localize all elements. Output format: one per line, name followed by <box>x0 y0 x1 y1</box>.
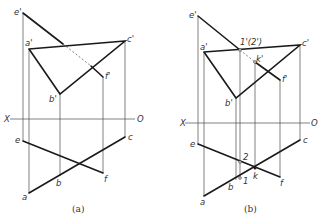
axis-label-x: X <box>3 114 10 124</box>
triangle-abc-front <box>204 45 300 98</box>
label-b: b <box>56 178 61 188</box>
caption-b: (b) <box>244 204 257 214</box>
label-a-prime: a' <box>25 38 33 48</box>
label-b-prime: b' <box>49 94 57 104</box>
line-ac-top <box>204 140 300 196</box>
label-b-prime: b' <box>225 98 233 108</box>
figure-b: e' a' c' f' b' 1'(2') k' X O e c 2 1 k f… <box>179 10 318 214</box>
label-1: 1 <box>243 176 248 186</box>
label-1-2-prime: 1'(2') <box>240 37 262 47</box>
label-f: f <box>280 178 285 188</box>
label-k-prime: k' <box>256 54 263 64</box>
label-a: a <box>22 192 27 202</box>
label-a-prime: a' <box>200 42 208 52</box>
label-a: a <box>200 197 205 207</box>
label-b: b <box>228 182 233 192</box>
point-2 <box>239 161 242 164</box>
line-ef-front-hidden <box>63 44 91 66</box>
figure-a: e' a' c' f' b' X O e c f b a (a) <box>3 7 144 214</box>
line-ef-top <box>198 144 280 177</box>
label-c-prime: c' <box>127 34 134 44</box>
label-e: e <box>15 135 20 145</box>
line-ac-top <box>29 137 125 193</box>
label-e-prime: e' <box>14 7 22 17</box>
point-k <box>254 167 257 170</box>
label-e-prime: e' <box>189 10 197 20</box>
axis-label-x: X <box>179 118 186 128</box>
label-f-prime: f' <box>282 74 287 84</box>
label-c-prime: c' <box>302 38 309 48</box>
label-c: c <box>128 132 133 142</box>
label-e: e <box>190 139 195 149</box>
projection-diagram: e' a' c' f' b' X O e c f b a (a) <box>0 0 323 219</box>
label-k: k <box>253 171 259 181</box>
label-f: f <box>104 174 109 184</box>
line-ef-front-hidden <box>240 50 255 62</box>
point-1-2-prime <box>239 49 242 52</box>
label-2: 2 <box>243 152 248 162</box>
point-1 <box>239 177 242 180</box>
label-f-prime: f' <box>105 71 110 81</box>
axis-label-o: O <box>311 118 318 128</box>
label-c: c <box>303 135 308 145</box>
caption-a: (a) <box>72 204 84 214</box>
triangle-abc-front <box>29 41 125 94</box>
axis-label-o: O <box>137 114 144 124</box>
